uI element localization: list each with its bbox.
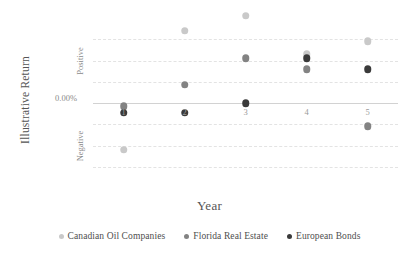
gridline <box>93 82 398 83</box>
data-point <box>364 65 372 73</box>
legend-marker-icon <box>59 234 64 239</box>
y-tick-label-zero: 0.00% <box>55 93 77 103</box>
x-tick-label: 5 <box>365 107 369 117</box>
x-axis-title: Year <box>0 198 419 214</box>
data-point <box>303 55 311 63</box>
y-tick-label-positive: Positive <box>72 39 88 83</box>
legend-item-label: Florida Real Estate <box>193 231 268 241</box>
legend-marker-icon <box>184 234 189 239</box>
chart-legend: Canadian Oil CompaniesFlorida Real Estat… <box>0 231 419 241</box>
y-axis-title-text: Illustrative Return <box>19 56 31 144</box>
x-tick-label: 2 <box>182 107 186 117</box>
gridline <box>93 39 398 40</box>
legend-item-label: European Bonds <box>296 231 360 241</box>
data-point <box>181 27 189 35</box>
gridline <box>93 146 398 147</box>
x-tick-label: 3 <box>243 107 247 117</box>
y-axis-title: Illustrative Return <box>14 0 36 200</box>
data-point <box>242 12 250 20</box>
data-point <box>364 38 372 46</box>
y-tick-label-negative: Negative <box>72 122 88 170</box>
data-point <box>181 81 189 89</box>
data-point <box>242 99 250 107</box>
gridline <box>93 167 398 168</box>
gridline <box>93 124 398 125</box>
legend-item[interactable]: Florida Real Estate <box>184 231 268 241</box>
data-point <box>242 55 250 63</box>
scatter-chart: Illustrative Return Positive 0.00% Negat… <box>0 0 419 259</box>
legend-item[interactable]: European Bonds <box>287 231 360 241</box>
x-tick-label: 4 <box>304 107 308 117</box>
x-tick-label: 1 <box>121 107 125 117</box>
plot-area <box>93 18 398 188</box>
legend-item[interactable]: Canadian Oil Companies <box>59 231 166 241</box>
y-tick-zero-text: 0.00% <box>55 93 77 103</box>
y-tick-positive-text: Positive <box>75 47 85 74</box>
legend-item-label: Canadian Oil Companies <box>68 231 166 241</box>
y-tick-negative-text: Negative <box>75 130 85 161</box>
legend-marker-icon <box>287 234 292 239</box>
data-point <box>303 65 311 73</box>
data-point <box>364 123 372 131</box>
data-point <box>120 146 128 154</box>
